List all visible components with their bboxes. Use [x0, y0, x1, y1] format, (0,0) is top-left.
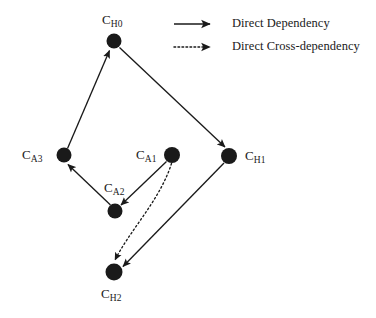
- node-label-ca1: CA1: [136, 148, 157, 162]
- dependency-graph-figure: CH0 CA3 CA1 CH1 CA2 CH2 Direct Dependenc…: [0, 0, 376, 318]
- node-ch0[interactable]: [107, 34, 122, 49]
- node-ca2[interactable]: [108, 204, 123, 219]
- node-ca1[interactable]: [164, 147, 180, 163]
- legend-label-direct-cross-dependency: Direct Cross-dependency: [232, 40, 360, 53]
- edge-ch0-to-ch1: [120, 48, 226, 148]
- node-label-ca3: CA3: [22, 148, 43, 162]
- node-ca3[interactable]: [57, 148, 72, 163]
- node-ch2[interactable]: [106, 264, 123, 281]
- node-label-ch1: CH1: [245, 149, 266, 163]
- node-label-ch0: CH0: [102, 13, 123, 27]
- node-ch1[interactable]: [221, 148, 237, 164]
- edge-ca1-to-ca2: [121, 162, 167, 206]
- edge-ch1-to-ch2: [123, 163, 224, 267]
- node-label-ca2: CA2: [104, 181, 125, 195]
- node-label-ch2: CH2: [101, 287, 122, 301]
- legend-label-direct-dependency: Direct Dependency: [232, 17, 330, 30]
- edge-ca3-to-ch0: [68, 51, 110, 149]
- legend-lines-layer: [174, 24, 210, 47]
